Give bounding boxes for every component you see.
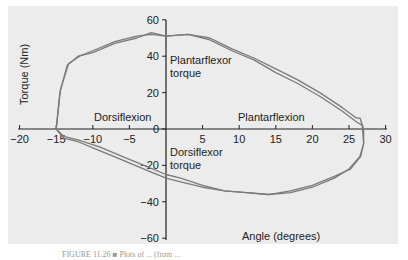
y-axis-label: Torque (Nm) <box>18 44 30 105</box>
plantarflexor-label-line2: torque <box>170 67 201 79</box>
x-tick-label: −5 <box>123 133 136 145</box>
x-tick-label: 20 <box>306 133 318 145</box>
y-tick-label: 20 <box>147 87 159 99</box>
torque-angle-chart: −20−15−10−551015202530 6040200−20−40−60 … <box>0 0 408 260</box>
x-tick-label: 5 <box>200 133 206 145</box>
plantarflexion-label: Plantarflexion <box>238 111 305 123</box>
y-tick-label: 0 <box>153 123 159 135</box>
x-tick-label: 15 <box>270 133 282 145</box>
y-tick-label: 40 <box>147 50 159 62</box>
dorsiflexion-label: Dorsiflexion <box>94 111 151 123</box>
x-tick-label: 10 <box>233 133 245 145</box>
y-tick-label: 60 <box>147 14 159 26</box>
dorsiflexor-label-line2: torque <box>170 159 201 171</box>
x-tick-label: 30 <box>379 133 391 145</box>
x-tick-label: −20 <box>10 133 29 145</box>
plantarflexor-label-line1: Plantarflexor <box>170 54 232 66</box>
y-tick-label: −40 <box>140 196 159 208</box>
y-tick-label: −60 <box>140 232 159 244</box>
x-tick-label: 25 <box>343 133 355 145</box>
chart-figure: −20−15−10−551015202530 6040200−20−40−60 … <box>0 0 408 260</box>
dorsiflexor-label-line1: Dorsiflexor <box>170 146 223 158</box>
x-axis-label: Angle (degrees) <box>242 230 320 242</box>
figure-caption: FIGURE 11.26 ■ Plots of ... (from ... <box>62 250 180 259</box>
